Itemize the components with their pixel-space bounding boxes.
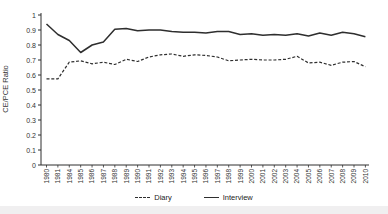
x-tick-label: 1984: [66, 169, 73, 184]
y-tick-label: 0.8: [26, 42, 36, 49]
x-tick-label: 1999: [237, 169, 244, 184]
ce-pce-ratio-figure: CE/PCE Ratio 00.10.20.30.40.50.60.70.80.…: [0, 0, 388, 214]
x-tick-label: 1996: [202, 169, 209, 184]
x-tick-label: 2004: [293, 169, 300, 184]
x-tick-label: 1990: [134, 169, 141, 184]
x-tick-label: 2009: [350, 169, 357, 184]
legend-label-interview: Interview: [223, 193, 253, 202]
scan-artifact-strip: [0, 206, 388, 214]
x-tick-label: 2006: [316, 169, 323, 184]
x-tick-label: 2000: [248, 169, 255, 184]
legend-label-diary: Diary: [154, 193, 172, 202]
y-tick-label: 0.1: [26, 147, 36, 154]
x-tick-label: 2005: [305, 169, 312, 184]
y-tick-label: 0.4: [26, 102, 36, 109]
y-tick-label: 1: [32, 12, 36, 19]
legend-item-interview: Interview: [204, 193, 253, 202]
x-tick-label: 1987: [100, 169, 107, 184]
x-tick-label: 1995: [191, 169, 198, 184]
x-tick-label: 2002: [271, 169, 278, 184]
x-tick-label: 1989: [123, 169, 130, 184]
y-tick-label: 0.9: [26, 27, 36, 34]
line-chart-canvas: 00.10.20.30.40.50.60.70.80.9119801981198…: [0, 0, 388, 214]
x-tick-label: 1991: [145, 169, 152, 184]
y-tick-label: 0.5: [26, 87, 36, 94]
diary-dashed-line-sample: [135, 197, 150, 198]
x-tick-label: 1985: [77, 169, 84, 184]
x-tick-label: 1980: [43, 169, 50, 184]
x-tick-label: 1993: [168, 169, 175, 184]
y-tick-label: 0.7: [26, 57, 36, 64]
x-tick-label: 1988: [111, 169, 118, 184]
x-tick-label: 1981: [54, 169, 61, 184]
interview-series-line: [47, 24, 366, 53]
x-tick-label: 1998: [225, 169, 232, 184]
x-tick-label: 2010: [362, 169, 369, 184]
legend-item-diary: Diary: [135, 193, 172, 202]
chart-legend: Diary Interview: [0, 192, 388, 203]
x-tick-label: 1986: [88, 169, 95, 184]
x-tick-label: 1992: [157, 169, 164, 184]
x-tick-label: 2003: [282, 169, 289, 184]
y-tick-label: 0: [32, 162, 36, 169]
interview-solid-line-sample: [204, 197, 219, 198]
y-tick-label: 0.3: [26, 117, 36, 124]
x-tick-label: 2008: [339, 169, 346, 184]
y-tick-label: 0.6: [26, 72, 36, 79]
diary-series-line: [47, 54, 366, 79]
x-tick-label: 2007: [328, 169, 335, 184]
x-tick-label: 2001: [259, 169, 266, 184]
y-tick-label: 0.2: [26, 132, 36, 139]
x-tick-label: 1994: [180, 169, 187, 184]
x-tick-label: 1997: [214, 169, 221, 184]
